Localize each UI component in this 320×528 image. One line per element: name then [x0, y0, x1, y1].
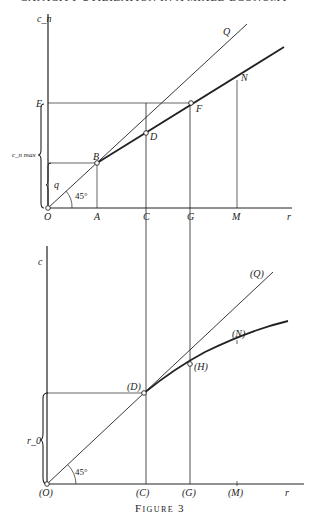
- label-g: G: [187, 211, 194, 222]
- bottom-y-label: c: [38, 256, 43, 267]
- label-g-bottom: (G): [182, 487, 197, 499]
- top-y-label: c_n: [37, 13, 51, 24]
- figure-caption: Figure 3: [0, 502, 320, 514]
- bottom-labels: c (Q) (N) (H) (D) r_0 45° (O) (C) (G) (M…: [27, 256, 289, 499]
- bottom-45-line: [47, 272, 273, 484]
- point-h-bottom: [188, 362, 193, 367]
- label-q-bottom: (Q): [250, 268, 265, 280]
- label-o-bottom: (O): [39, 487, 54, 499]
- label-n-bottom: (N): [232, 328, 246, 340]
- point-o: [46, 206, 51, 211]
- point-o-bottom: [45, 482, 50, 487]
- point-d: [144, 131, 149, 136]
- label-h-bottom: (H): [194, 361, 209, 373]
- label-d-bottom: (D): [127, 381, 142, 393]
- label-m: M: [231, 211, 241, 222]
- label-c: C: [143, 211, 150, 222]
- label-n: N: [240, 72, 249, 83]
- bottom-thick-curve: [144, 321, 288, 393]
- label-c-bottom: (C): [136, 487, 150, 499]
- label-e: E: [35, 98, 42, 109]
- bottom-x-label: r: [285, 487, 289, 498]
- bottom-diagram: [40, 246, 304, 486]
- label-b: B: [93, 151, 99, 162]
- top-45-line: [48, 24, 247, 208]
- label-r0: r_0: [27, 435, 41, 446]
- label-angle-bottom: 45°: [75, 467, 88, 477]
- top-outer-brace: [38, 104, 44, 208]
- top-angle-arc: [66, 191, 72, 208]
- label-q-brace: q: [54, 179, 59, 190]
- point-d-bottom: [142, 391, 147, 396]
- label-cn-max: c_n max: [12, 151, 36, 159]
- top-diagram: [38, 14, 292, 484]
- label-d: D: [149, 131, 158, 142]
- point-f: [189, 101, 194, 106]
- label-o: O: [44, 211, 51, 222]
- label-a: A: [93, 211, 101, 222]
- figure-canvas: c_n Q E B D F N c_n max q 45° O A C G M …: [0, 0, 320, 528]
- label-angle-top: 45°: [75, 191, 88, 201]
- top-x-label: r: [287, 211, 291, 222]
- top-labels: c_n Q E B D F N c_n max q 45° O A C G M …: [12, 13, 291, 222]
- label-f: F: [195, 103, 203, 114]
- label-m-bottom: (M): [228, 487, 244, 499]
- label-q: Q: [223, 26, 231, 37]
